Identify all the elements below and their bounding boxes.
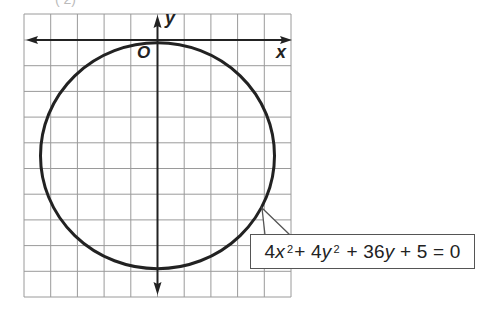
eq-op3: + [400, 241, 411, 263]
eq-t1-coef: 4 [264, 241, 275, 263]
x-axis-label: x [276, 42, 286, 63]
eq-t4: 5 [417, 241, 428, 263]
eq-op2: + [346, 241, 357, 263]
eq-t3-coef: 36 [363, 241, 385, 263]
callout-pointer [262, 208, 290, 235]
eq-t2-exp: 2 [334, 243, 340, 255]
y-axis-label: y [165, 8, 175, 29]
eq-equals: = [433, 241, 444, 263]
eq-t2-var: y [322, 241, 332, 263]
equation-label: 4x2+ 4y2 + 36y + 5 = 0 [250, 234, 475, 269]
eq-t3-var: y [385, 241, 395, 263]
y-axis [154, 15, 162, 295]
eq-t2-coef: 4 [311, 241, 322, 263]
eq-t1-exp: 2 [287, 243, 293, 255]
eq-t1-var: x [275, 241, 285, 263]
origin-label: O [137, 43, 150, 63]
eq-op1: + [294, 241, 305, 263]
eq-rhs: 0 [450, 241, 461, 263]
